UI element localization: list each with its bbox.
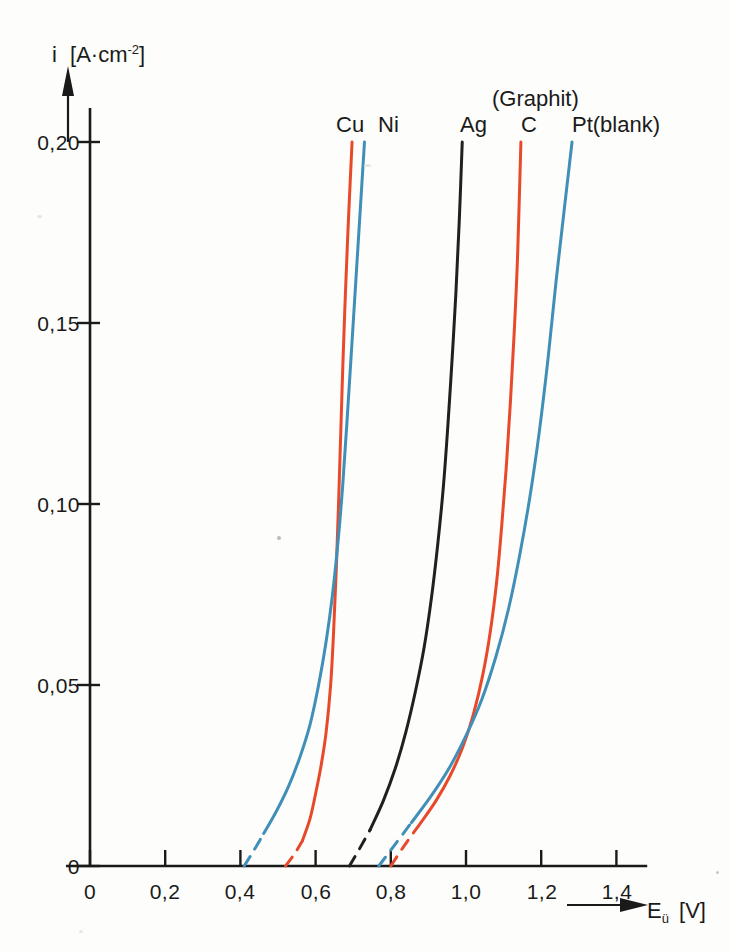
- scan-speck: [277, 536, 281, 540]
- x-tick-label-7: 1,4: [587, 880, 647, 904]
- y-tick-label-2: 0,10: [10, 493, 80, 517]
- x-tick-label-1: 0,2: [135, 880, 195, 904]
- scan-speck: [79, 930, 83, 933]
- x-tick-label-6: 1,2: [512, 880, 572, 904]
- curve-solid-segment: [370, 142, 462, 830]
- x-tick-label-4: 0,8: [361, 880, 421, 904]
- curve-solid-segment: [302, 142, 352, 841]
- curves-group: [244, 142, 572, 866]
- curve-solid-segment: [264, 142, 365, 833]
- x-tick-label-5: 1,0: [436, 880, 496, 904]
- y-axis-unit-exponent: -2: [127, 42, 139, 57]
- y-axis-unit-open: [A: [70, 42, 91, 67]
- y-tick-label-0: 0: [10, 855, 80, 879]
- series-label-ag: Ag: [460, 112, 487, 138]
- curve-solid-segment: [421, 142, 521, 823]
- curve-dashed-segment: [286, 841, 303, 866]
- curve-dashed-segment: [349, 830, 370, 866]
- scan-speck: [364, 164, 371, 167]
- x-axis-symbol: E: [647, 898, 662, 923]
- x-tick-label-0: 0: [60, 880, 120, 904]
- plot-canvas: [0, 0, 730, 952]
- curve-solid-segment: [411, 142, 572, 823]
- y-tick-label-3: 0,15: [10, 312, 80, 336]
- y-axis-symbol: i: [52, 42, 57, 67]
- series-label-c: C: [521, 112, 537, 138]
- curve-ag: [349, 142, 462, 866]
- curve-dashed-segment: [244, 833, 264, 866]
- y-tick-label-1: 0,05: [10, 674, 80, 698]
- x-axis-subscript: ü: [662, 911, 669, 926]
- series-label-pt: Pt(blank): [572, 112, 660, 138]
- figure-page: i [A·cm-2] Eü [V] 0 0,05 0,10 0,15 0,20 …: [0, 0, 730, 952]
- y-axis-unit-mid: ·cm: [91, 42, 128, 67]
- y-axis-unit-close: ]: [139, 42, 145, 67]
- x-axis-title: Eü [V]: [647, 898, 706, 926]
- scan-speck: [37, 215, 42, 218]
- y-axis-title: i [A·cm-2]: [52, 42, 145, 68]
- x-tick-label-2: 0,4: [210, 880, 270, 904]
- series-label-cu: Cu: [336, 112, 364, 138]
- curve-pt-blank: [379, 142, 572, 866]
- scan-speck: [716, 871, 719, 874]
- x-axis-unit: [V]: [679, 898, 706, 923]
- axes-group: [62, 66, 648, 912]
- series-label-graphit: (Graphit): [492, 86, 579, 112]
- y-axis-arrow-head: [62, 66, 74, 96]
- x-tick-label-3: 0,6: [286, 880, 346, 904]
- series-label-ni: Ni: [378, 112, 399, 138]
- y-tick-label-4: 0,20: [10, 131, 80, 155]
